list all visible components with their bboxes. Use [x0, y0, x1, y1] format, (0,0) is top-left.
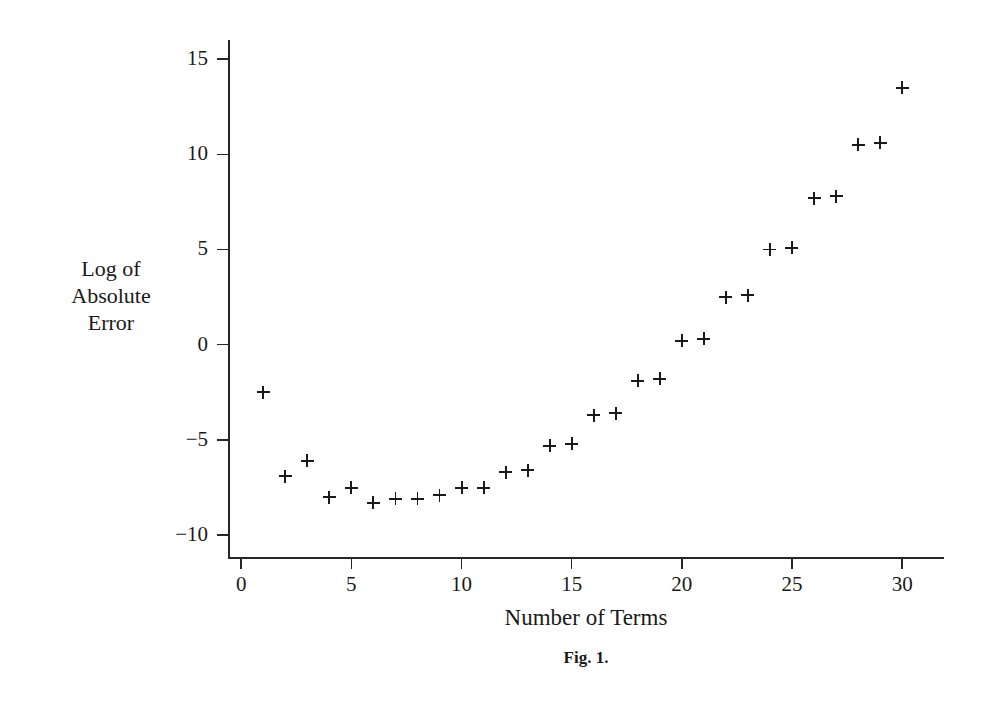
data-point-marker	[697, 332, 710, 345]
data-point-marker	[631, 374, 644, 387]
x-tick-label: 15	[542, 574, 602, 595]
data-point-marker	[896, 81, 909, 94]
x-tick-mark	[901, 558, 903, 569]
data-point-marker	[587, 409, 600, 422]
y-tick-mark	[217, 439, 228, 441]
x-tick-label: 30	[872, 574, 932, 595]
data-point-marker	[521, 464, 534, 477]
data-point-marker	[257, 386, 270, 399]
data-point-marker	[830, 190, 843, 203]
y-tick-label: 5	[150, 238, 208, 259]
data-point-marker	[499, 466, 512, 479]
x-tick-label: 10	[432, 574, 492, 595]
data-point-marker	[565, 437, 578, 450]
data-point-marker	[477, 481, 490, 494]
y-tick-mark	[217, 534, 228, 536]
data-point-marker	[455, 481, 468, 494]
data-point-marker	[719, 291, 732, 304]
y-tick-label: 15	[150, 48, 208, 69]
x-tick-mark	[791, 558, 793, 569]
data-point-marker	[874, 136, 887, 149]
x-tick-mark	[461, 558, 463, 569]
figure-scatter-plot: Log of Absolute Error −10−5051015 051015…	[0, 0, 996, 703]
y-tick-mark	[217, 58, 228, 60]
data-point-marker	[367, 496, 380, 509]
x-tick-label: 0	[211, 574, 271, 595]
y-axis-label: Log of Absolute Error	[36, 255, 186, 336]
figure-caption: Fig. 1.	[228, 648, 944, 668]
x-tick-label: 20	[652, 574, 712, 595]
y-tick-label: 0	[150, 334, 208, 355]
data-point-marker	[301, 454, 314, 467]
data-point-marker	[852, 138, 865, 151]
data-point-marker	[279, 470, 292, 483]
y-tick-label: −5	[150, 429, 208, 450]
y-tick-label: 10	[150, 143, 208, 164]
x-tick-mark	[681, 558, 683, 569]
data-point-marker	[543, 439, 556, 452]
x-tick-label: 25	[762, 574, 822, 595]
y-tick-mark	[217, 154, 228, 156]
y-axis-label-line-2: Absolute	[36, 282, 186, 309]
plot-area	[228, 40, 944, 558]
x-axis-label: Number of Terms	[228, 605, 944, 631]
data-point-marker	[741, 289, 754, 302]
data-point-marker	[785, 241, 798, 254]
y-tick-mark	[217, 344, 228, 346]
y-axis-label-line-3: Error	[36, 309, 186, 336]
x-tick-mark	[240, 558, 242, 569]
data-point-marker	[323, 491, 336, 504]
data-point-marker	[345, 481, 358, 494]
data-point-marker	[433, 489, 446, 502]
data-point-marker	[653, 372, 666, 385]
data-point-marker	[808, 192, 821, 205]
data-point-marker	[411, 492, 424, 505]
y-tick-mark	[217, 249, 228, 251]
x-tick-mark	[571, 558, 573, 569]
data-point-marker	[763, 243, 776, 256]
data-point-marker	[675, 334, 688, 347]
data-point-marker	[609, 407, 622, 420]
x-tick-label: 5	[321, 574, 381, 595]
x-tick-mark	[351, 558, 353, 569]
data-point-marker	[389, 492, 402, 505]
y-tick-label: −10	[150, 524, 208, 545]
